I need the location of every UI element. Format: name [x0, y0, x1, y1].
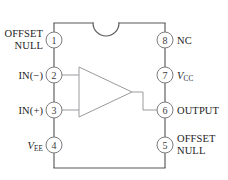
diagram-canvas: 1 2 3 4 8 7 6 5 OFFSET NULL IN(−) IN(+) …	[0, 0, 228, 180]
pin-circles-group	[46, 32, 173, 153]
pin-number-4: 4	[52, 140, 57, 151]
pin-label-2: IN(−)	[19, 70, 44, 82]
pin-numbers-group: 1 2 3 4 8 7 6 5	[52, 35, 168, 151]
pin-label-3: IN(+)	[19, 105, 44, 117]
output-trace	[132, 92, 157, 110]
pin-label-5-line1: OFFSET	[177, 133, 216, 144]
pin-number-6: 6	[163, 105, 168, 116]
pin-label-7: VCC	[177, 70, 193, 83]
amplifier-triangle-icon	[79, 67, 132, 117]
pin-label-1-line2: NULL	[15, 40, 43, 51]
pin-label-6: OUTPUT	[177, 105, 220, 116]
pin-number-3: 3	[52, 105, 57, 116]
pin-number-1: 1	[52, 35, 57, 46]
left-pin-labels-group: OFFSET NULL IN(−) IN(+) VEE	[4, 28, 43, 153]
pin-number-8: 8	[163, 35, 168, 46]
pin-label-7-subscript: CC	[184, 75, 194, 83]
pin-number-7: 7	[163, 70, 168, 81]
chip-body-outline	[54, 23, 165, 168]
pin-label-8: NC	[177, 35, 192, 46]
internal-amplifier-symbol	[62, 67, 157, 117]
pin-label-4: VEE	[28, 140, 44, 153]
right-pin-labels-group: NC VCC OUTPUT OFFSET NULL	[177, 35, 220, 156]
chip-notch-icon	[93, 23, 119, 36]
pin-number-2: 2	[52, 70, 57, 81]
pin-label-4-subscript: EE	[34, 145, 43, 153]
pin-number-5: 5	[163, 140, 168, 151]
pin-label-1-line1: OFFSET	[4, 28, 43, 39]
pin-label-5-line2: NULL	[177, 145, 205, 156]
opamp-pinout-diagram: 1 2 3 4 8 7 6 5 OFFSET NULL IN(−) IN(+) …	[0, 0, 228, 180]
